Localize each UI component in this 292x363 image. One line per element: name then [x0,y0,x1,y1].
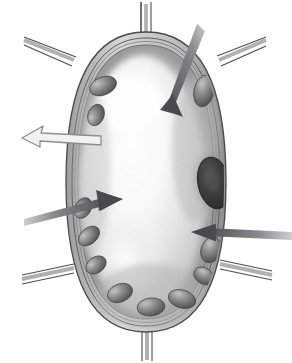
plant-cell-diagram: Plant cell cross-section diagram Graysca… [0,0,292,363]
figure-canvas: Plant cell cross-section diagram Graysca… [0,0,292,363]
